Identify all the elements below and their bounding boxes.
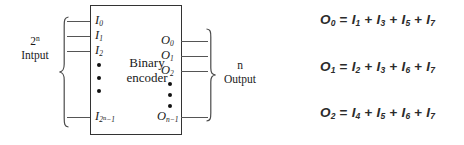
equation-o2-equals: = bbox=[340, 105, 348, 120]
output-group-label: n Output bbox=[216, 58, 264, 86]
output-pin-label-2: O2 bbox=[161, 64, 174, 80]
equation-o1-plus-0: + bbox=[364, 59, 372, 74]
equation-o2: O2 = I4 + I5 + I6 + I7 bbox=[320, 105, 435, 121]
equation-o1-term-2: I6 bbox=[401, 59, 410, 74]
equation-o0-plus-2: + bbox=[414, 12, 422, 27]
input-wire-0 bbox=[67, 21, 91, 22]
output-ellipsis-dot-2 bbox=[168, 93, 172, 97]
output-pin-label-last: On−1 bbox=[157, 110, 179, 126]
equation-o2-lhs: O2 bbox=[320, 105, 336, 120]
equation-o2-term-3: I7 bbox=[426, 105, 435, 120]
input-pin-label-last: I2n−1 bbox=[95, 110, 115, 126]
equation-o0-lhs: O0 bbox=[320, 12, 336, 27]
equation-o1-term-3: I7 bbox=[426, 59, 435, 74]
input-wire-2 bbox=[67, 51, 91, 52]
equation-o2-term-0: I4 bbox=[352, 105, 361, 120]
equation-o1-plus-1: + bbox=[389, 59, 397, 74]
equation-o1-plus-2: + bbox=[414, 59, 422, 74]
equation-o1-lhs: O1 bbox=[320, 59, 336, 74]
equation-o0-plus-0: + bbox=[364, 12, 372, 27]
input-ellipsis-dot-3 bbox=[97, 89, 101, 93]
equation-o2-plus-0: + bbox=[364, 105, 372, 120]
output-wire-0 bbox=[181, 41, 208, 42]
equation-o0-plus-1: + bbox=[389, 12, 397, 27]
output-wire-1 bbox=[181, 56, 208, 57]
equation-o0-equals: = bbox=[340, 12, 348, 27]
equation-o2-plus-2: + bbox=[414, 105, 422, 120]
input-group-label: 2n Intput bbox=[6, 32, 64, 62]
equation-o2-plus-1: + bbox=[389, 105, 397, 120]
output-wire-2 bbox=[181, 71, 208, 72]
equation-o1-equals: = bbox=[340, 59, 348, 74]
equation-o2-term-1: I5 bbox=[377, 105, 386, 120]
equation-o2-term-2: I6 bbox=[401, 105, 410, 120]
output-ellipsis-dot-1 bbox=[168, 82, 172, 86]
input-ellipsis-dot-2 bbox=[97, 76, 101, 80]
equation-o1-term-1: I3 bbox=[377, 59, 386, 74]
input-wire-last bbox=[67, 117, 91, 118]
input-word-label: Intput bbox=[6, 48, 64, 62]
equation-o0-term-1: I3 bbox=[377, 12, 386, 27]
left-curly-brace-icon bbox=[58, 16, 70, 128]
equation-o0-term-2: I5 bbox=[401, 12, 410, 27]
equation-o1: O1 = I2 + I3 + I6 + I7 bbox=[320, 59, 435, 75]
equation-o0-term-0: I1 bbox=[352, 12, 361, 27]
equation-o0: O0 = I1 + I3 + I5 + I7 bbox=[320, 12, 435, 28]
encoder-diagram-canvas: 2n Intput Binary encoder I0 I1 I2 I2n−1 … bbox=[0, 0, 464, 145]
input-count-label: 2n bbox=[6, 32, 64, 48]
equation-o1-term-0: I2 bbox=[352, 59, 361, 74]
output-ellipsis-dot-3 bbox=[168, 104, 172, 108]
input-pin-label-2: I2 bbox=[95, 44, 103, 60]
output-count-label: n bbox=[216, 58, 264, 72]
input-wire-1 bbox=[67, 36, 91, 37]
input-ellipsis-dot-1 bbox=[97, 63, 101, 67]
equation-o0-term-3: I7 bbox=[426, 12, 435, 27]
output-wire-last bbox=[181, 117, 208, 118]
output-word-label: Output bbox=[216, 72, 264, 86]
